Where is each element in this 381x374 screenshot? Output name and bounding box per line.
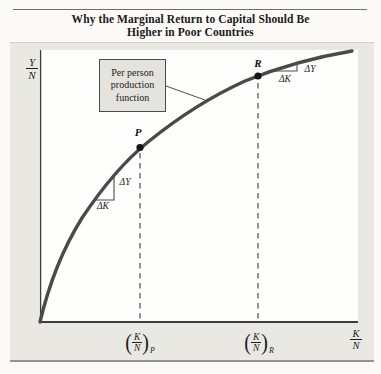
tick-r-denominator: N: [251, 342, 261, 353]
tick-p-denominator: N: [132, 342, 142, 353]
tick-r-fraction: K N: [251, 332, 261, 353]
annotation-box: Per person production function: [99, 59, 166, 112]
y-axis-label: Y N: [24, 56, 40, 81]
figure-title-line2: Higher in Poor Countries: [0, 26, 381, 39]
annotation-box-label: Per person production function: [102, 67, 163, 105]
tick-label-r: ( K N ) R: [241, 327, 277, 357]
figure-panel: [10, 42, 374, 362]
paren-close: ): [261, 327, 268, 357]
paren-close: ): [142, 327, 149, 357]
tick-r-numerator: K: [251, 332, 261, 342]
figure: Why the Marginal Return to Capital Shoul…: [0, 0, 381, 374]
y-axis-denominator: N: [26, 68, 37, 81]
delta-y-label-r: ΔY: [299, 64, 321, 74]
point-p-label: P: [131, 126, 145, 138]
x-axis-label: K N: [348, 328, 364, 351]
x-axis-denominator: N: [350, 339, 361, 351]
top-rule: [13, 9, 367, 10]
plot-area: [40, 50, 358, 322]
figure-title-line1: Why the Marginal Return to Capital Shoul…: [0, 13, 381, 26]
paren-open: (: [244, 327, 251, 357]
x-axis-numerator: K: [350, 328, 361, 339]
y-axis-numerator: Y: [27, 56, 37, 68]
delta-k-label-r: ΔK: [274, 74, 296, 84]
tick-p-numerator: K: [132, 332, 142, 342]
delta-k-label-p: ΔK: [92, 201, 114, 211]
delta-y-label-p: ΔY: [114, 177, 136, 187]
point-r-label: R: [251, 57, 265, 69]
tick-label-p: ( K N ) P: [122, 327, 158, 357]
paren-open: (: [125, 327, 132, 357]
tick-p-subscript: P: [150, 346, 155, 355]
tick-r-subscript: R: [269, 346, 274, 355]
tick-p-fraction: K N: [132, 332, 142, 353]
figure-title: Why the Marginal Return to Capital Shoul…: [0, 13, 381, 39]
